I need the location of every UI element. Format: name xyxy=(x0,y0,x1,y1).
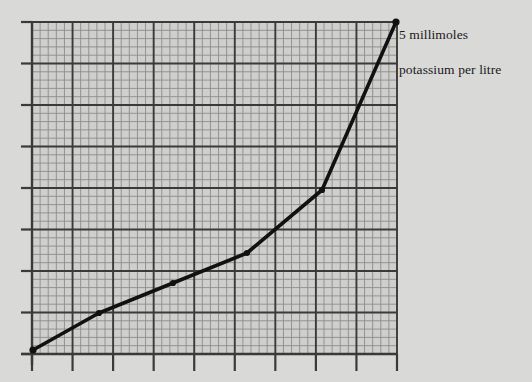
data-point-marker xyxy=(319,187,325,193)
data-point-marker xyxy=(244,250,250,256)
annotation-line-1: 5 millimoles xyxy=(399,26,531,44)
curve-annotation: 5 millimoles potassium per litre xyxy=(399,8,531,96)
data-point-marker xyxy=(170,280,176,286)
data-point-marker xyxy=(29,346,36,353)
chart-figure: 5 millimoles potassium per litre xyxy=(0,0,532,382)
annotation-line-2: potassium per litre xyxy=(399,61,531,79)
data-point-marker xyxy=(96,310,102,316)
